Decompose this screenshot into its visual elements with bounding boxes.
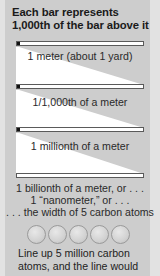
diagram-title: Each bar represents 1,000th of the bar a… (12, 6, 152, 32)
carbon-atom-icon (111, 225, 130, 244)
bar-nanometer (16, 173, 144, 178)
bar-label-micrometer: 1 millionth of a meter (5, 140, 155, 152)
carbon-atom-icon (48, 225, 67, 244)
bar-end-marker (17, 128, 20, 131)
bottom-caption: Line up 5 million carbon atoms, and the … (18, 247, 158, 273)
bar-label-nanometer-1: 1 billionth of a meter, or . . . (5, 182, 155, 194)
bar-meter (16, 41, 144, 46)
carbon-atom-icon (27, 225, 46, 244)
bar-millimeter (16, 84, 144, 89)
bar-label-nanometer-3: . . . the width of 5 carbon atoms (5, 206, 155, 218)
title-line-2: 1,000th of the bar above it (12, 19, 152, 32)
bottom-caption-line-2: atoms, and the line would (18, 260, 158, 273)
bottom-caption-line-1: Line up 5 million carbon (18, 247, 158, 260)
bar-micrometer (16, 127, 144, 132)
title-line-1: Each bar represents (12, 6, 152, 19)
bar-end-marker (17, 85, 20, 88)
bar-end-marker (17, 42, 20, 45)
bar-label-millimeter: 1/1,000th of a meter (5, 96, 155, 108)
carbon-atom-icon (69, 225, 88, 244)
bar-label-nanometer-2: 1 “nanometer,” or . . . (5, 194, 155, 206)
carbon-atoms-row (27, 225, 130, 245)
bar-label-meter: 1 meter (about 1 yard) (5, 50, 155, 62)
carbon-atom-icon (90, 225, 109, 244)
